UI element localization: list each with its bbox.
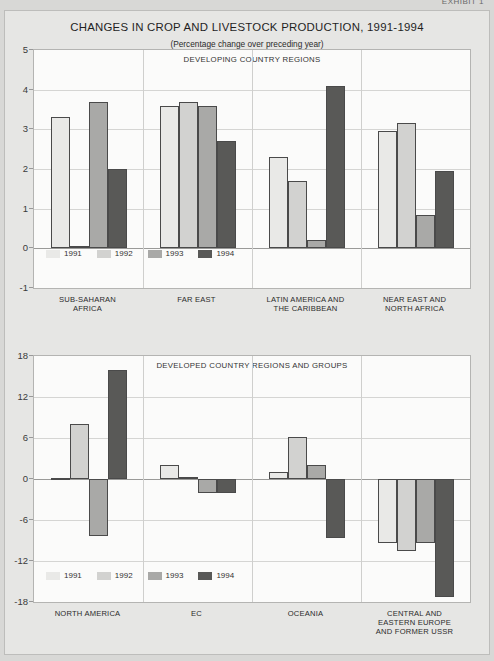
category-label-line: AND FORMER USSR <box>360 627 469 636</box>
panel-divider <box>143 356 144 602</box>
legend-item[interactable]: 1992 <box>97 571 133 580</box>
panel-divider <box>361 356 362 602</box>
chart-legend: 1991199219931994 <box>46 249 245 258</box>
legend-swatch <box>97 250 111 258</box>
bar <box>51 117 70 248</box>
bar <box>435 479 454 597</box>
plot-area-chart-1: DEVELOPING COUNTRY REGIONS 1991199219931… <box>33 49 471 289</box>
chart-developed-country-regions: 181260-6-12-18 DEVELOPED COUNTRY REGIONS… <box>5 355 491 637</box>
y-axis-chart-1: 543210-1 <box>5 49 33 323</box>
bar <box>269 157 288 248</box>
panel-divider <box>252 50 253 288</box>
bar <box>435 171 454 248</box>
category-label-line: EC <box>142 609 251 618</box>
y-axis-chart-2: 181260-6-12-18 <box>5 355 33 637</box>
legend-item[interactable]: 1993 <box>148 571 184 580</box>
category-label-line: EASTERN EUROPE <box>360 618 469 627</box>
y-axis-tick-label: 1 <box>23 202 28 213</box>
bar <box>378 131 397 248</box>
y-axis-tick-label: 18 <box>17 350 28 361</box>
bar <box>179 477 198 479</box>
bar <box>108 169 127 248</box>
y-axis-tick-label: -18 <box>14 596 28 607</box>
legend-item[interactable]: 1991 <box>46 571 82 580</box>
plot-area-chart-2: DEVELOPED COUNTRY REGIONS AND GROUPS 199… <box>33 355 471 603</box>
legend-label: 1993 <box>166 571 184 580</box>
page-title: CHANGES IN CROP AND LIVESTOCK PRODUCTION… <box>5 21 489 33</box>
bar <box>160 106 179 249</box>
chart-developing-country-regions: 543210-1 DEVELOPING COUNTRY REGIONS 1991… <box>5 49 491 323</box>
category-label-line: CENTRAL AND <box>360 609 469 618</box>
bar <box>307 465 326 479</box>
legend-swatch <box>198 572 212 580</box>
legend-item[interactable]: 1993 <box>148 249 184 258</box>
category-label: NORTH AMERICA <box>33 609 142 618</box>
legend-item[interactable]: 1992 <box>97 249 133 258</box>
y-axis-tick-label: -1 <box>20 282 28 293</box>
bar <box>160 465 179 479</box>
legend-swatch <box>46 572 60 580</box>
legend-label: 1991 <box>64 571 82 580</box>
bar <box>416 479 435 543</box>
bar <box>217 479 236 493</box>
legend-swatch <box>97 572 111 580</box>
y-axis-tick-label: 2 <box>23 163 28 174</box>
y-axis-tick-label: 0 <box>23 242 28 253</box>
bar <box>288 181 307 248</box>
legend-swatch <box>46 250 60 258</box>
bar <box>108 370 127 479</box>
category-label-line: NEAR EAST AND <box>360 295 469 304</box>
legend-swatch <box>148 572 162 580</box>
page-subtitle: (Percentage change over preceding year) <box>5 39 489 49</box>
panel-divider <box>361 50 362 288</box>
category-label-line: SUB-SAHARAN <box>33 295 142 304</box>
category-label: LATIN AMERICA ANDTHE CARIBBEAN <box>251 295 360 313</box>
legend-item[interactable]: 1994 <box>198 249 234 258</box>
bar <box>269 472 288 479</box>
bar <box>307 240 326 248</box>
bar <box>198 106 217 249</box>
category-label-line: FAR EAST <box>142 295 251 304</box>
exhibit-sheet: CHANGES IN CROP AND LIVESTOCK PRODUCTION… <box>4 10 490 655</box>
legend-item[interactable]: 1994 <box>198 571 234 580</box>
category-label-line: OCEANIA <box>251 609 360 618</box>
bar <box>288 437 307 479</box>
bar <box>179 102 198 249</box>
category-label-line: THE CARIBBEAN <box>251 304 360 313</box>
bar <box>397 123 416 248</box>
y-axis-tick-label: 4 <box>23 83 28 94</box>
category-labels-chart-2: NORTH AMERICAECOCEANIACENTRAL ANDEASTERN… <box>33 603 471 637</box>
bar <box>217 141 236 248</box>
legend-swatch <box>198 250 212 258</box>
exhibit-tag: EXHIBIT 1 <box>442 0 484 6</box>
category-label: SUB-SAHARANAFRICA <box>33 295 142 313</box>
y-axis-tick-label: 3 <box>23 123 28 134</box>
bar <box>198 479 217 493</box>
y-axis-tick-label: 0 <box>23 473 28 484</box>
bar <box>326 86 345 249</box>
y-axis-tick-label: 6 <box>23 432 28 443</box>
legend-label: 1993 <box>166 249 184 258</box>
legend-item[interactable]: 1991 <box>46 249 82 258</box>
bar <box>378 479 397 543</box>
bar <box>89 479 108 536</box>
bar <box>326 479 345 538</box>
category-label: CENTRAL ANDEASTERN EUROPEAND FORMER USSR <box>360 609 469 637</box>
category-label: EC <box>142 609 251 618</box>
bar <box>70 424 89 479</box>
category-label: NEAR EAST ANDNORTH AFRICA <box>360 295 469 313</box>
bar <box>416 215 435 249</box>
bar <box>397 479 416 551</box>
legend-label: 1994 <box>216 571 234 580</box>
category-label-line: NORTH AMERICA <box>33 609 142 618</box>
bar <box>89 102 108 249</box>
y-axis-tick-label: 12 <box>17 391 28 402</box>
category-label-line: AFRICA <box>33 304 142 313</box>
chart-legend: 1991199219931994 <box>46 571 245 580</box>
legend-label: 1991 <box>64 249 82 258</box>
category-label: FAR EAST <box>142 295 251 304</box>
category-labels-chart-1: SUB-SAHARANAFRICAFAR EASTLATIN AMERICA A… <box>33 289 471 323</box>
legend-label: 1994 <box>216 249 234 258</box>
category-label-line: LATIN AMERICA AND <box>251 295 360 304</box>
panel-divider <box>252 356 253 602</box>
